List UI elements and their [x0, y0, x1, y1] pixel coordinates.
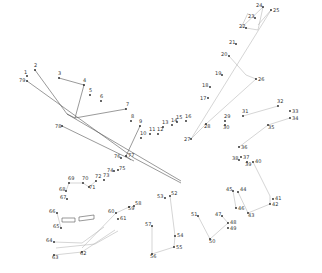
puzzle-dot[interactable]: 57: [145, 221, 153, 227]
dot-marker[interactable]: [235, 207, 237, 209]
dot-marker[interactable]: [58, 77, 60, 79]
puzzle-dot[interactable]: 24: [256, 2, 264, 8]
puzzle-dot[interactable]: 19: [215, 70, 223, 76]
dot-marker[interactable]: [227, 227, 229, 229]
puzzle-dot[interactable]: 33: [289, 108, 298, 114]
puzzle-dot[interactable]: 30: [223, 124, 229, 130]
puzzle-dot[interactable]: 20: [221, 51, 230, 57]
puzzle-dot[interactable]: 11: [149, 126, 155, 135]
puzzle-dot[interactable]: 9: [139, 118, 142, 127]
puzzle-dot[interactable]: 64: [46, 237, 55, 243]
puzzle-dot[interactable]: 15: [176, 114, 182, 123]
puzzle-dot[interactable]: 50: [209, 238, 215, 244]
puzzle-dot[interactable]: 61: [117, 215, 126, 221]
dot-marker[interactable]: [56, 212, 58, 214]
dot-marker[interactable]: [255, 78, 257, 80]
puzzle-dot[interactable]: 67: [60, 194, 68, 200]
dot-marker[interactable]: [174, 235, 176, 237]
puzzle-dot[interactable]: 1: [24, 69, 28, 77]
puzzle-dot[interactable]: 18: [202, 82, 211, 88]
dot-marker[interactable]: [209, 86, 211, 88]
dot-marker[interactable]: [207, 97, 209, 99]
dot-marker[interactable]: [277, 105, 279, 107]
dot-marker[interactable]: [270, 9, 272, 11]
dot-marker[interactable]: [34, 69, 36, 71]
puzzle-dot[interactable]: 56: [150, 253, 156, 259]
puzzle-dot[interactable]: 25: [270, 7, 279, 13]
puzzle-dot[interactable]: 49: [227, 225, 236, 231]
dot-marker[interactable]: [149, 133, 151, 135]
puzzle-dot[interactable]: 51: [191, 211, 199, 217]
dot-marker[interactable]: [237, 191, 239, 193]
puzzle-dot[interactable]: 69: [68, 175, 74, 184]
puzzle-dot[interactable]: 73: [103, 172, 109, 181]
puzzle-dot[interactable]: 28: [204, 123, 210, 129]
puzzle-dot[interactable]: 47: [215, 211, 223, 217]
puzzle-dot[interactable]: 79: [19, 77, 28, 83]
puzzle-dot[interactable]: 34: [289, 115, 298, 121]
dot-marker[interactable]: [115, 212, 117, 214]
puzzle-dot[interactable]: 36: [238, 144, 247, 150]
puzzle-dot[interactable]: 68: [59, 186, 67, 192]
puzzle-dot[interactable]: 72: [95, 173, 101, 182]
puzzle-dot[interactable]: 10: [140, 130, 146, 139]
puzzle-dot[interactable]: 76: [114, 153, 122, 159]
puzzle-dot[interactable]: 3: [58, 70, 61, 79]
dot-marker[interactable]: [272, 198, 274, 200]
puzzle-dot[interactable]: 63: [52, 254, 58, 260]
puzzle-dot[interactable]: 6: [100, 93, 103, 102]
puzzle-dot[interactable]: 66: [49, 208, 58, 214]
puzzle-dot[interactable]: 70: [82, 175, 88, 184]
dot-marker[interactable]: [68, 182, 70, 184]
puzzle-dot[interactable]: 5: [89, 87, 92, 96]
puzzle-dot[interactable]: 38: [232, 155, 240, 161]
puzzle-dot[interactable]: 60: [108, 208, 117, 214]
puzzle-dot[interactable]: 7: [125, 101, 129, 110]
puzzle-dot[interactable]: 71: [88, 184, 95, 190]
dot-marker[interactable]: [82, 182, 84, 184]
puzzle-dot[interactable]: 46: [235, 205, 244, 211]
dot-marker[interactable]: [171, 124, 173, 126]
dot-marker[interactable]: [164, 197, 166, 199]
dot-marker[interactable]: [95, 180, 97, 182]
dot-marker[interactable]: [269, 203, 271, 205]
dot-marker[interactable]: [26, 80, 28, 82]
dot-marker[interactable]: [185, 120, 187, 122]
dot-marker[interactable]: [139, 125, 141, 127]
puzzle-dot[interactable]: 54: [174, 232, 183, 238]
puzzle-dot[interactable]: 35: [267, 124, 274, 130]
dot-marker[interactable]: [157, 133, 159, 135]
puzzle-dot[interactable]: 42: [269, 201, 278, 207]
puzzle-dot[interactable]: 45: [226, 186, 234, 192]
puzzle-dot[interactable]: 37: [240, 154, 249, 160]
dot-marker[interactable]: [26, 75, 28, 77]
dot-marker[interactable]: [130, 120, 132, 122]
puzzle-dot[interactable]: 29: [224, 113, 230, 122]
dot-marker[interactable]: [89, 94, 91, 96]
dot-marker[interactable]: [162, 126, 164, 128]
dot-marker[interactable]: [173, 246, 175, 248]
puzzle-dot[interactable]: 23: [248, 13, 256, 19]
puzzle-dot[interactable]: 32: [277, 98, 283, 107]
dot-marker[interactable]: [53, 241, 55, 243]
puzzle-dot[interactable]: 2: [34, 62, 37, 71]
dot-marker[interactable]: [228, 55, 230, 57]
puzzle-dot[interactable]: 4: [83, 77, 86, 86]
puzzle-dot[interactable]: 75: [117, 165, 125, 171]
dot-marker[interactable]: [289, 110, 291, 112]
puzzle-dot[interactable]: 27: [184, 136, 192, 142]
puzzle-dot[interactable]: 55: [173, 244, 182, 250]
dot-marker[interactable]: [125, 108, 127, 110]
dot-marker[interactable]: [100, 100, 102, 102]
puzzle-dot[interactable]: 16: [185, 113, 191, 122]
puzzle-dot[interactable]: 53: [157, 193, 166, 199]
puzzle-dot[interactable]: 26: [255, 76, 264, 82]
puzzle-dot[interactable]: 8: [130, 113, 134, 122]
puzzle-dot[interactable]: 59: [128, 205, 134, 211]
puzzle-dot[interactable]: 43: [247, 212, 254, 218]
puzzle-dot[interactable]: 39: [245, 161, 251, 167]
puzzle-dot[interactable]: 44: [237, 186, 246, 193]
dot-marker[interactable]: [125, 155, 127, 157]
dot-marker[interactable]: [242, 115, 244, 117]
puzzle-dot[interactable]: 13: [162, 119, 168, 128]
